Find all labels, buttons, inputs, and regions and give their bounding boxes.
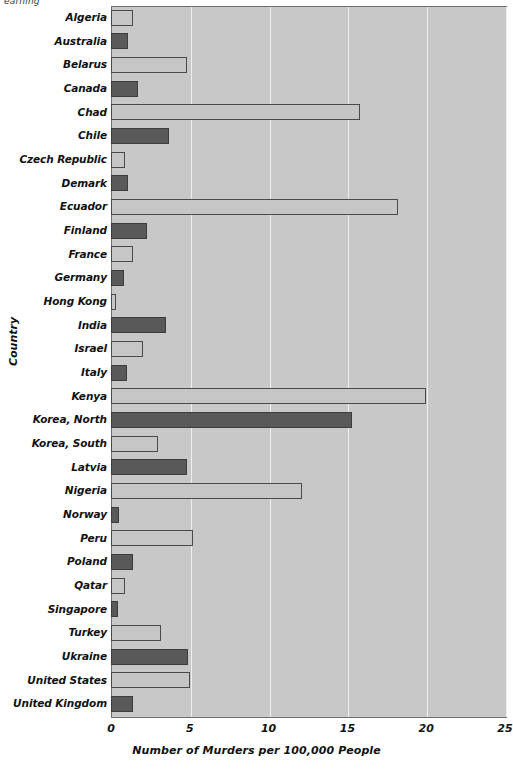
bar-row: [111, 361, 507, 385]
bar-row: [111, 77, 507, 101]
bar-turkey: [111, 625, 161, 641]
bar-row: [111, 148, 507, 172]
bar-row: [111, 692, 507, 716]
y-axis-title: Country: [7, 307, 20, 377]
bar-row: [111, 432, 507, 456]
y-tick-label: France: [0, 248, 107, 260]
bar-united-kingdom: [111, 696, 133, 712]
y-tick-label: Ukraine: [0, 650, 107, 662]
bar-finland: [111, 223, 147, 239]
bar-germany: [111, 270, 124, 286]
bar-row: [111, 408, 507, 432]
bar-row: [111, 621, 507, 645]
bar-peru: [111, 530, 193, 546]
bars-container: [111, 6, 507, 718]
y-tick-label: Germany: [0, 271, 107, 283]
y-tick-label: Chad: [0, 106, 107, 118]
bar-row: [111, 314, 507, 338]
bar-ecuador: [111, 199, 398, 215]
bar-row: [111, 550, 507, 574]
y-tick-label: Korea, South: [0, 437, 107, 449]
y-tick-label: Canada: [0, 82, 107, 94]
bar-chad: [111, 104, 360, 120]
bar-row: [111, 574, 507, 598]
y-tick-label: United States: [0, 674, 107, 686]
y-tick-label: Australia: [0, 35, 107, 47]
bar-row: [111, 503, 507, 527]
bar-algeria: [111, 10, 133, 26]
bar-row: [111, 597, 507, 621]
horizontal-bar-chart: AlgeriaAustraliaBelarusCanadaChadChileCz…: [0, 0, 513, 772]
bar-canada: [111, 81, 138, 97]
bar-row: [111, 479, 507, 503]
y-tick-label: Algeria: [0, 11, 107, 23]
bar-latvia: [111, 459, 187, 475]
y-tick-label: Poland: [0, 555, 107, 567]
bar-row: [111, 30, 507, 54]
bar-singapore: [111, 601, 118, 617]
bar-row: [111, 645, 507, 669]
bar-row: [111, 101, 507, 125]
x-tick-label-5: 5: [186, 722, 194, 735]
bar-india: [111, 317, 166, 333]
y-tick-label: Qatar: [0, 579, 107, 591]
bar-demark: [111, 175, 128, 191]
x-tick-label-15: 15: [340, 722, 355, 735]
bar-france: [111, 246, 133, 262]
x-axis-title: Number of Murders per 100,000 People: [0, 744, 513, 757]
y-tick-label: Demark: [0, 177, 107, 189]
bar-row: [111, 455, 507, 479]
bar-row: [111, 195, 507, 219]
bar-italy: [111, 365, 127, 381]
y-tick-label: Singapore: [0, 603, 107, 615]
y-tick-label: Norway: [0, 508, 107, 520]
bar-kenya: [111, 388, 426, 404]
y-tick-label: Finland: [0, 224, 107, 236]
y-tick-label: Latvia: [0, 461, 107, 473]
x-tick-label-10: 10: [261, 722, 276, 735]
bar-israel: [111, 341, 143, 357]
y-tick-label: Chile: [0, 129, 107, 141]
bar-korea-south: [111, 436, 158, 452]
y-tick-label: Korea, North: [0, 413, 107, 425]
bar-row: [111, 124, 507, 148]
bar-chile: [111, 128, 169, 144]
bar-hong-kong: [111, 294, 116, 310]
bar-ukraine: [111, 649, 188, 665]
bar-row: [111, 337, 507, 361]
bar-poland: [111, 554, 133, 570]
bar-korea-north: [111, 412, 352, 428]
y-tick-label: Belarus: [0, 58, 107, 70]
bar-nigeria: [111, 483, 302, 499]
bar-united-states: [111, 672, 190, 688]
bar-row: [111, 53, 507, 77]
bar-row: [111, 219, 507, 243]
bar-qatar: [111, 578, 125, 594]
y-tick-label: Hong Kong: [0, 295, 107, 307]
bar-row: [111, 668, 507, 692]
bar-australia: [111, 33, 128, 49]
bar-row: [111, 243, 507, 267]
bar-row: [111, 385, 507, 409]
bar-belarus: [111, 57, 187, 73]
bar-row: [111, 266, 507, 290]
x-tick-label-0: 0: [107, 722, 115, 735]
y-tick-label: Peru: [0, 532, 107, 544]
x-axis-tick-labels: 0510152025: [0, 722, 513, 740]
y-tick-label: United Kingdom: [0, 697, 107, 709]
bar-row: [111, 172, 507, 196]
bar-row: [111, 526, 507, 550]
y-tick-label: Turkey: [0, 626, 107, 638]
y-tick-label: Czech Republic: [0, 153, 107, 165]
bar-czech-republic: [111, 152, 125, 168]
bar-row: [111, 6, 507, 30]
y-tick-label: Kenya: [0, 390, 107, 402]
x-tick-label-20: 20: [419, 722, 434, 735]
y-tick-label: Nigeria: [0, 484, 107, 496]
bar-norway: [111, 507, 119, 523]
x-tick-label-25: 25: [497, 722, 512, 735]
bar-row: [111, 290, 507, 314]
y-tick-label: Ecuador: [0, 200, 107, 212]
